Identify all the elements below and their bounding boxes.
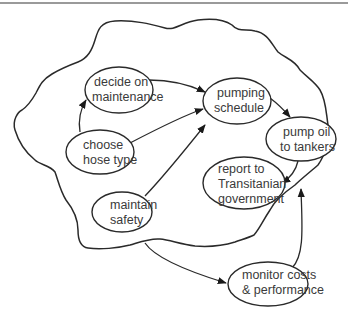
node-decide-on-maintenance: decide on maintenance [85,67,164,113]
node-label: & performance [242,283,324,297]
edge-pumping-schedule-to-pump-oil [270,98,290,117]
node-label: safety [110,213,144,227]
node-label: pumping [217,86,265,100]
edge-maintain-safety-to-pumping-schedule [145,125,205,196]
node-maintain-safety: maintain safety [92,192,157,232]
edge-choose-hose-to-pumping-schedule [130,109,203,143]
node-pump-oil-to-tankers: pump oil to tankers [266,117,336,161]
node-label: to tankers [280,140,335,154]
node-monitor-costs-and-performance: monitor costs & performance [228,262,324,306]
node-label: hose type [83,153,137,167]
edge-boundary-to-monitor [145,243,226,283]
node-label: report to [218,162,265,176]
node-report-to-transitanian-government: report to Transitanian government [203,157,286,209]
node-label: choose [83,138,123,152]
node-choose-hose-type: choose hose type [66,130,137,174]
node-label: government [218,192,285,206]
node-label: decide on [94,75,148,89]
node-pumping-schedule: pumping schedule [203,78,271,124]
node-label: maintenance [92,90,164,104]
node-label: monitor costs [242,268,316,282]
node-label: pump oil [283,125,330,139]
edge-choose-hose-to-decide-maintenance [79,100,86,132]
node-label: maintain [110,198,157,212]
node-label: Transitanian [218,177,286,191]
edge-monitor-to-boundary [292,189,302,268]
activity-diagram: decide on maintenance pumping schedule c… [0,0,348,316]
node-label: schedule [214,101,264,115]
